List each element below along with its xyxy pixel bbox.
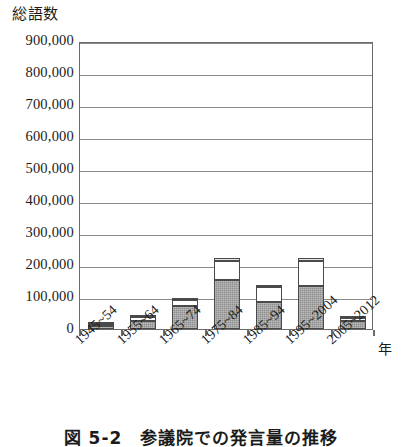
bar [298, 41, 324, 329]
y-axis-tick-label: 600,000 [0, 128, 80, 145]
bar [88, 41, 114, 329]
x-axis-tick [373, 330, 375, 336]
figure-container: 総語数 0100,000200,000300,000400,000500,000… [0, 0, 402, 447]
bar-segment-light [256, 285, 282, 287]
bar [256, 41, 282, 329]
y-axis-tick-label: 0 [0, 320, 80, 337]
y-axis-tick-label: 200,000 [0, 256, 80, 273]
y-axis-title: 総語数 [12, 2, 59, 23]
x-axis-unit-label: 年 [378, 338, 392, 358]
figure-caption: 図 5-2 参議院での発言量の推移 [0, 424, 402, 447]
y-axis-tick-label: 900,000 [0, 32, 80, 49]
y-axis-tick-label: 100,000 [0, 288, 80, 305]
bar-segment-light [172, 298, 198, 301]
y-axis-tick-label: 800,000 [0, 64, 80, 81]
y-axis-tick-label: 500,000 [0, 160, 80, 177]
plot-area [79, 42, 373, 330]
bar [340, 41, 366, 329]
bar-segment-white [214, 261, 240, 281]
bar-segment-light [298, 258, 324, 261]
bar-segment-white [298, 261, 324, 287]
bar-segment-light [214, 258, 240, 261]
y-axis-tick-label: 700,000 [0, 96, 80, 113]
bar [214, 41, 240, 329]
y-axis-tick-label: 400,000 [0, 192, 80, 209]
bar-segment-white [256, 287, 282, 303]
bar [130, 41, 156, 329]
y-axis-tick-label: 300,000 [0, 224, 80, 241]
bar [172, 41, 198, 329]
